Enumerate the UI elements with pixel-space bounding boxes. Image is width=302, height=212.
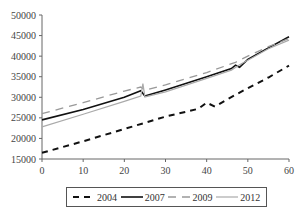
legend-swatch-icon — [121, 194, 143, 200]
legend-item-2009: 2009 — [168, 192, 212, 203]
x-tick-label: 20 — [119, 165, 129, 176]
x-tick-label: 40 — [202, 165, 212, 176]
x-tick-label: 0 — [40, 165, 45, 176]
y-tick-label: 20000 — [11, 133, 36, 144]
series-line-2012 — [42, 40, 289, 127]
y-tick-label: 50000 — [11, 10, 36, 21]
series-line-2009 — [42, 39, 289, 114]
legend-swatch-icon — [216, 194, 238, 200]
y-tick-label: 40000 — [11, 51, 36, 62]
y-tick-label: 45000 — [11, 30, 36, 41]
legend-label: 2004 — [97, 192, 117, 203]
axes: 1500020000250003000035000400004500050000… — [11, 10, 294, 177]
y-tick-label: 35000 — [11, 71, 36, 82]
series-line-2007 — [42, 37, 289, 120]
x-tick-label: 60 — [284, 165, 294, 176]
x-tick-label: 30 — [161, 165, 171, 176]
y-tick-label: 30000 — [11, 92, 36, 103]
legend-swatch-icon — [168, 194, 190, 200]
legend-item-2004: 2004 — [73, 192, 117, 203]
legend-label: 2012 — [240, 192, 260, 203]
y-tick-label: 25000 — [11, 112, 36, 123]
x-tick-label: 10 — [78, 165, 88, 176]
series-lines — [42, 37, 289, 153]
line-chart: 1500020000250003000035000400004500050000… — [0, 0, 302, 212]
legend-item-2007: 2007 — [121, 192, 165, 203]
y-tick-label: 15000 — [11, 154, 36, 165]
legend-swatch-icon — [73, 194, 95, 200]
legend: 2004200720092012 — [66, 187, 267, 207]
x-tick-label: 50 — [243, 165, 253, 176]
legend-item-2012: 2012 — [216, 192, 260, 203]
legend-label: 2009 — [192, 192, 212, 203]
legend-label: 2007 — [145, 192, 165, 203]
series-line-2004 — [42, 66, 289, 153]
